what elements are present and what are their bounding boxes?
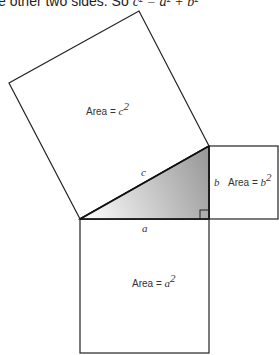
side-b-label: b — [214, 176, 220, 188]
side-a-label: a — [142, 222, 148, 234]
pythagoras-diagram: Area = c2 c b Area = b2 a Area = a2 — [0, 0, 279, 355]
side-c-label: c — [141, 166, 146, 178]
